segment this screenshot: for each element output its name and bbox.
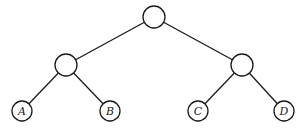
node-circle [143, 6, 165, 28]
tree-nodes: ABCD [12, 6, 294, 121]
tree-node-a: A [12, 101, 32, 121]
edge-root-left [66, 17, 154, 65]
tree-node-root [143, 6, 165, 28]
node-circle [231, 54, 253, 76]
tree-node-left [55, 54, 77, 76]
node-label: D [279, 105, 289, 118]
binary-tree-diagram: ABCD [0, 0, 308, 129]
node-circle [55, 54, 77, 76]
edge-root-right [154, 17, 242, 65]
node-label: B [105, 105, 114, 118]
node-label: A [17, 105, 26, 118]
tree-node-d: D [274, 101, 294, 121]
node-label: C [194, 105, 203, 118]
tree-node-right [231, 54, 253, 76]
tree-node-c: C [188, 101, 208, 121]
tree-node-b: B [100, 101, 120, 121]
